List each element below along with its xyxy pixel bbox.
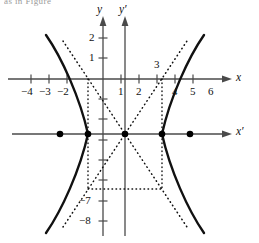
x-axis — [8, 75, 232, 84]
y-tick-label-neg7: −7 — [79, 195, 91, 206]
y-tick-label-1: 1 — [89, 52, 95, 63]
x-tick-label-1: 1 — [118, 86, 124, 97]
x-tick-label-3: 3 — [154, 59, 160, 70]
x-tick-label-2: 2 — [136, 86, 142, 97]
y-axis-label: y — [97, 4, 102, 15]
point-vertex-left — [85, 131, 92, 138]
x-tick-label-6: 6 — [208, 86, 214, 97]
x-tick-label-neg2: −2 — [57, 86, 69, 97]
point-center — [122, 131, 129, 138]
y-prime-axis-label: y′ — [119, 4, 127, 15]
x-tick-label-5: 5 — [190, 86, 196, 97]
x-prime-axis-label: x′ — [236, 126, 244, 137]
y-tick-label-2: 2 — [89, 32, 95, 43]
x-tick-label-neg4: −4 — [21, 86, 33, 97]
point-focus-right — [187, 131, 194, 138]
x-tick-label-neg3: −3 — [39, 86, 51, 97]
hyperbola-figure: as in Figure — [0, 0, 259, 243]
y-tick-label-neg8: −8 — [79, 215, 91, 226]
point-focus-left — [57, 131, 64, 138]
point-vertex-right — [159, 131, 166, 138]
x-tick-label-4: 4 — [172, 86, 178, 97]
y-prime-axis — [122, 16, 129, 236]
y-axis — [99, 16, 108, 236]
graph-canvas — [0, 0, 259, 243]
x-axis-label: x — [236, 72, 241, 83]
